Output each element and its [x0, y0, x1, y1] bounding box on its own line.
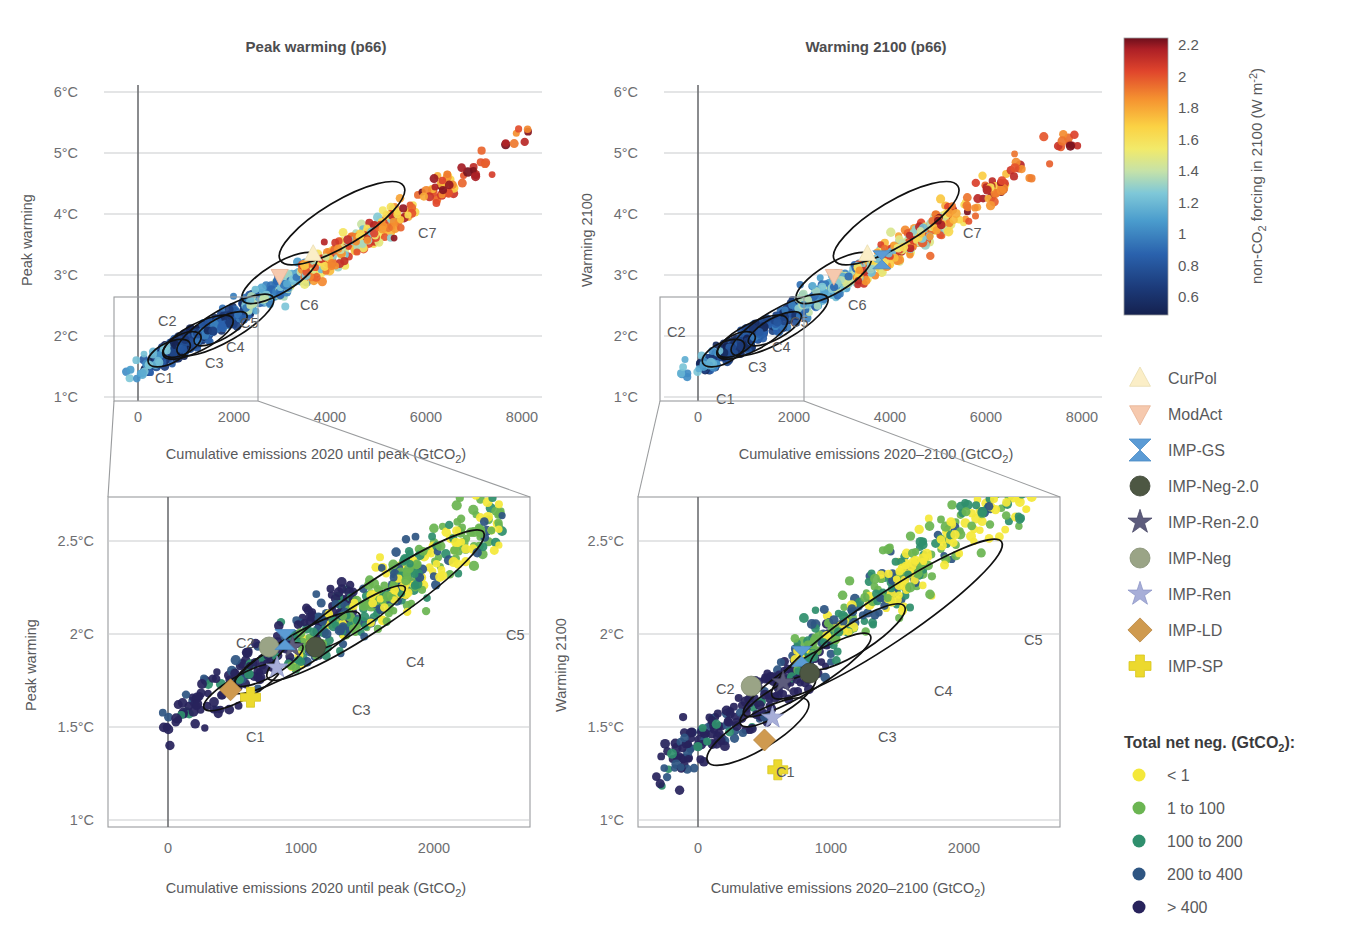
scatter-point: [230, 293, 237, 300]
scatter-point: [1070, 130, 1079, 139]
marker-legend-item[interactable]: IMP-LD: [1128, 618, 1222, 642]
colorbar-ticklabels: 2.221.81.61.41.210.80.6: [1178, 36, 1199, 305]
legend-modact-icon: [1130, 406, 1151, 425]
marker-imp-neg-2-0: [306, 637, 326, 657]
scatter-point: [164, 725, 174, 735]
netneg-legend-item[interactable]: 1 to 100: [1133, 800, 1225, 817]
scatter-point: [925, 515, 933, 523]
x-axis-label-b-head: Cumulative emissions 2020–2100 (GtCO: [739, 446, 1003, 462]
y-tick: 1°C: [614, 389, 638, 405]
scatter-point: [950, 530, 959, 539]
scatter-point: [390, 218, 398, 226]
marker-legend-item[interactable]: IMP-Neg-2.0: [1130, 476, 1259, 496]
colorbar-title: non-CO2 forcing in 2100 (W m-2): [1247, 68, 1268, 284]
netneg-legend-item[interactable]: < 1: [1133, 767, 1190, 784]
scatter-point: [444, 171, 451, 178]
scatter-point: [422, 607, 430, 615]
scatter-point: [1026, 458, 1034, 466]
scatter-point: [739, 729, 747, 737]
x-tick: 0: [694, 840, 702, 856]
x-axis-label-d-head: Cumulative emissions 2020–2100 (GtCO: [711, 880, 975, 896]
scatter-point: [883, 545, 893, 555]
y-tick: 3°C: [54, 267, 78, 283]
scatter-point: [972, 179, 980, 187]
panel-warming-2100-zoom: 2.5°C 2°C 1.5°C 1°C 0 1000 2000 Warming …: [553, 458, 1060, 899]
cluster-label-c1: C1: [155, 370, 174, 386]
scatter-point: [1002, 511, 1011, 520]
cluster-label-c3: C3: [352, 702, 371, 718]
scatter-point: [138, 369, 146, 377]
netneg-legend-label: < 1: [1167, 767, 1190, 784]
scatter-point: [337, 584, 346, 593]
marker-legend-item[interactable]: IMP-Neg: [1130, 548, 1231, 568]
cluster-label-c1: C1: [716, 391, 735, 407]
scatter-point: [963, 193, 972, 202]
marker-legend-item[interactable]: ModAct: [1130, 406, 1223, 425]
marker-legend-label: IMP-Neg-2.0: [1168, 478, 1259, 495]
cluster-label-c6: C6: [848, 297, 867, 313]
x-tick: 8000: [506, 409, 538, 425]
legend-imp-neg-icon: [1130, 548, 1150, 568]
marker-legend-item[interactable]: CurPol: [1130, 367, 1217, 387]
cluster-label-c4: C4: [406, 654, 425, 670]
scatter-point: [281, 303, 289, 311]
legend-imp-ren-2-0-icon: [1128, 509, 1152, 532]
scatter-point: [376, 553, 384, 561]
scatter-point: [703, 737, 711, 745]
cluster-label-c5: C5: [1024, 632, 1043, 648]
netneg-legend-item[interactable]: 200 to 400: [1133, 866, 1243, 883]
y-axis-label-a: Peak warming: [19, 194, 35, 286]
scatter-point: [515, 125, 522, 132]
scatter-point: [720, 741, 730, 751]
netneg-legend-label: 100 to 200: [1167, 833, 1243, 850]
marker-legend-item[interactable]: IMP-Ren-2.0: [1128, 509, 1259, 532]
scatter-point: [1024, 489, 1033, 498]
marker-legend-item[interactable]: IMP-Ren: [1128, 581, 1231, 604]
scatter-point: [1028, 471, 1037, 480]
scatter-point: [818, 658, 826, 666]
netneg-legend-label: > 400: [1167, 899, 1208, 916]
scatter-point: [812, 607, 819, 614]
y-tick: 1°C: [54, 389, 78, 405]
y-tick: 1°C: [600, 812, 624, 828]
panel-peak-warming-overview: 6°C 5°C 4°C 3°C 2°C 1°C 0 2000 4000 6000…: [19, 84, 542, 465]
netneg-legend-item[interactable]: > 400: [1133, 899, 1208, 916]
scatter-point: [420, 193, 428, 201]
scatter-point: [799, 613, 809, 623]
legend-imp-gs-icon: [1129, 439, 1151, 461]
scatter-point: [328, 262, 336, 270]
scatter-point: [1022, 487, 1031, 496]
scatter-point: [983, 186, 992, 195]
scatter-point: [677, 763, 685, 771]
marker-legend-item[interactable]: IMP-GS: [1129, 439, 1225, 461]
x-tick: 8000: [1066, 409, 1098, 425]
scatter-point: [807, 619, 817, 629]
scatter-point: [925, 590, 935, 600]
colorbar-tick: 1.4: [1178, 162, 1199, 179]
scatter-point: [364, 237, 371, 244]
netneg-legend: Total net neg. (GtCO2): < 11 to 100100 t…: [1124, 734, 1295, 916]
scatter-point: [159, 709, 167, 717]
marker-legend-item[interactable]: IMP-SP: [1129, 655, 1223, 677]
colorbar-title-tail: ): [1248, 68, 1265, 73]
scatter-point: [1007, 481, 1016, 490]
scatter-point: [1011, 151, 1018, 158]
scatter-point: [988, 489, 995, 496]
cluster-label-c3: C3: [205, 355, 224, 371]
colorbar-tick: 0.8: [1178, 257, 1199, 274]
scatter-point: [433, 560, 441, 568]
scatter-point: [1019, 471, 1028, 480]
scatter-point: [973, 194, 982, 203]
cluster-label-c7: C7: [963, 225, 982, 241]
scatter-point: [274, 621, 284, 631]
scatter-point: [663, 773, 671, 781]
scatter-point: [488, 494, 496, 502]
scatter-point: [481, 160, 489, 168]
scatter-point: [368, 599, 377, 608]
netneg-legend-item[interactable]: 100 to 200: [1133, 833, 1243, 850]
y-axis-label-b: Warming 2100: [579, 193, 595, 287]
colorbar[interactable]: 2.221.81.61.41.210.80.6 non-CO2 forcing …: [1124, 36, 1268, 315]
marker-legend-label: CurPol: [1168, 370, 1217, 387]
scatter-point: [335, 626, 345, 636]
scatter-point: [461, 544, 470, 553]
